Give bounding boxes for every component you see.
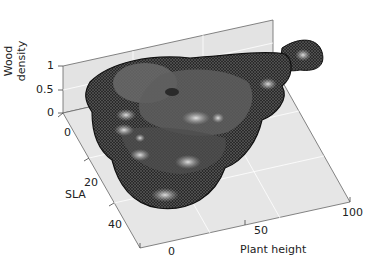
y-tick-20: 20	[84, 176, 98, 189]
x-tick-50: 50	[254, 224, 268, 237]
z-tick-1: 1	[47, 59, 54, 72]
y-axis-label: SLA	[65, 188, 86, 201]
z-tick-0: 0	[47, 106, 54, 119]
y-tick-0: 0	[64, 126, 71, 139]
z-axis-label: Wood density	[2, 36, 28, 86]
z-tick-0-5: 0.5	[36, 83, 54, 96]
z-axis-label-line2: density	[15, 36, 28, 86]
x-axis-label: Plant height	[240, 243, 306, 256]
y-tick-40: 40	[108, 218, 122, 231]
chart-3d-plot	[0, 0, 377, 269]
z-axis-label-line1: Wood	[2, 36, 15, 86]
x-tick-0: 0	[168, 245, 175, 258]
x-tick-100: 100	[342, 206, 363, 219]
